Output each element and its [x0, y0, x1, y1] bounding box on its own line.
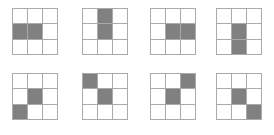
empty-cell-5	[247, 24, 262, 39]
shaded-cell-6	[13, 105, 28, 120]
empty-cell-3	[217, 89, 232, 104]
empty-cell-6	[217, 105, 232, 120]
shaded-cell-8	[247, 105, 262, 120]
shaded-cell-4	[98, 24, 113, 39]
empty-cell-0	[83, 9, 98, 24]
empty-cell-8	[247, 40, 262, 55]
empty-cell-3	[83, 24, 98, 39]
grid-panel-4	[216, 8, 262, 55]
empty-cell-1	[166, 9, 181, 24]
grid-panel-3	[150, 8, 196, 55]
empty-cell-8	[43, 105, 58, 120]
empty-cell-7	[166, 40, 181, 55]
empty-cell-1	[28, 74, 43, 89]
empty-cell-8	[181, 105, 196, 120]
empty-cell-3	[151, 89, 166, 104]
grid-panel-2	[82, 8, 128, 55]
grid-panel-7	[150, 73, 196, 120]
empty-cell-8	[181, 40, 196, 55]
empty-cell-6	[151, 40, 166, 55]
empty-cell-1	[28, 9, 43, 24]
empty-cell-1	[232, 74, 247, 89]
empty-cell-1	[98, 74, 113, 89]
grid-panel-1	[12, 8, 58, 55]
empty-cell-5	[43, 24, 58, 39]
empty-cell-0	[13, 9, 28, 24]
empty-cell-5	[247, 89, 262, 104]
shaded-cell-4	[166, 24, 181, 39]
empty-cell-0	[217, 74, 232, 89]
empty-cell-7	[166, 105, 181, 120]
empty-cell-3	[13, 89, 28, 104]
grid-pattern-figure	[0, 0, 274, 135]
shaded-cell-4	[28, 24, 43, 39]
empty-cell-2	[247, 9, 262, 24]
empty-cell-7	[232, 105, 247, 120]
shaded-cell-4	[98, 89, 113, 104]
empty-cell-6	[83, 40, 98, 55]
empty-cell-6	[13, 40, 28, 55]
empty-cell-2	[43, 9, 58, 24]
empty-cell-5	[113, 24, 128, 39]
empty-cell-0	[151, 74, 166, 89]
empty-cell-6	[217, 40, 232, 55]
empty-cell-1	[166, 74, 181, 89]
empty-cell-5	[181, 89, 196, 104]
empty-cell-2	[113, 74, 128, 89]
empty-cell-3	[83, 89, 98, 104]
grid-panel-6	[82, 73, 128, 120]
empty-cell-0	[217, 9, 232, 24]
empty-cell-6	[83, 105, 98, 120]
empty-cell-3	[217, 24, 232, 39]
shaded-cell-4	[28, 89, 43, 104]
empty-cell-5	[113, 89, 128, 104]
empty-cell-7	[28, 105, 43, 120]
shaded-cell-4	[232, 24, 247, 39]
empty-cell-2	[247, 74, 262, 89]
empty-cell-3	[151, 24, 166, 39]
empty-cell-1	[232, 9, 247, 24]
empty-cell-2	[181, 9, 196, 24]
empty-cell-6	[151, 105, 166, 120]
shaded-cell-7	[232, 40, 247, 55]
grid-panel-5	[12, 73, 58, 120]
empty-cell-7	[98, 40, 113, 55]
shaded-cell-5	[181, 24, 196, 39]
empty-cell-8	[113, 40, 128, 55]
shaded-cell-0	[83, 74, 98, 89]
shaded-cell-3	[13, 24, 28, 39]
empty-cell-2	[43, 74, 58, 89]
shaded-cell-2	[181, 74, 196, 89]
empty-cell-0	[13, 74, 28, 89]
empty-cell-0	[151, 9, 166, 24]
empty-cell-7	[98, 105, 113, 120]
empty-cell-8	[113, 105, 128, 120]
shaded-cell-4	[166, 89, 181, 104]
grid-panel-8	[216, 73, 262, 120]
empty-cell-2	[113, 9, 128, 24]
empty-cell-5	[43, 89, 58, 104]
shaded-cell-4	[232, 89, 247, 104]
empty-cell-8	[43, 40, 58, 55]
shaded-cell-1	[98, 9, 113, 24]
empty-cell-7	[28, 40, 43, 55]
